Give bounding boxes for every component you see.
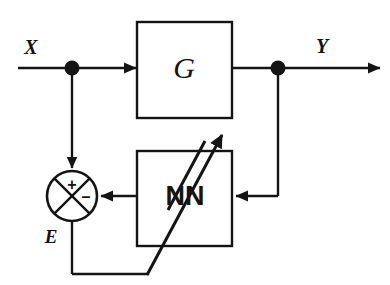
error-signal-label: E <box>44 226 58 247</box>
diagram-svg: G X Y + – E NN <box>0 0 390 285</box>
minus-sign-label: – <box>82 188 91 205</box>
output-signal-label: Y <box>316 35 330 57</box>
input-signal-label: X <box>23 36 38 58</box>
block-diagram-canvas: G X Y + – E NN <box>0 0 390 285</box>
plus-sign-label: + <box>67 176 76 193</box>
plant-block-label: G <box>173 51 195 84</box>
